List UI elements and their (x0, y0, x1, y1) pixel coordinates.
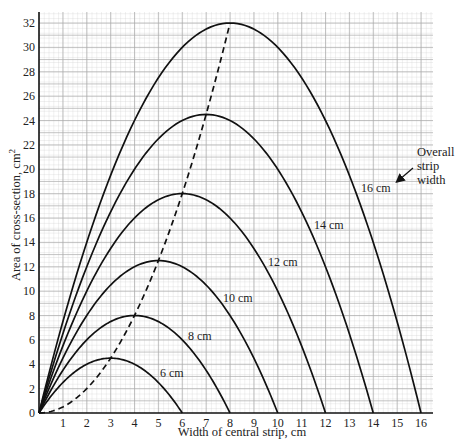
svg-text:24: 24 (23, 114, 35, 128)
svg-text:Area of cross-section, cm2: Area of cross-section, cm2 (7, 149, 23, 281)
svg-text:12: 12 (320, 416, 332, 430)
svg-text:32: 32 (23, 16, 35, 30)
chart: 12345678910111213141516 0246810121416182… (0, 0, 463, 446)
svg-text:14: 14 (367, 416, 379, 430)
svg-text:13: 13 (343, 416, 355, 430)
svg-text:0: 0 (29, 406, 35, 420)
annotation-line-2: strip (417, 159, 439, 173)
y-axis-label: Area of cross-section, cm2 (7, 149, 23, 281)
x-axis-label: Width of central strip, cm (178, 425, 307, 439)
svg-text:3: 3 (108, 416, 114, 430)
svg-text:5: 5 (155, 416, 161, 430)
svg-text:2: 2 (29, 382, 35, 396)
svg-text:4: 4 (132, 416, 138, 430)
curve-label-6cm: 6 cm (160, 366, 184, 380)
svg-text:6: 6 (29, 333, 35, 347)
svg-text:10: 10 (23, 284, 35, 298)
svg-text:16: 16 (415, 416, 427, 430)
y-tick-labels: 02468101214161820222426283032 (23, 16, 35, 420)
curve-label-16cm: 16 cm (361, 181, 391, 195)
annotation-line-1: Overall (417, 145, 455, 159)
svg-text:18: 18 (23, 187, 35, 201)
svg-text:2: 2 (84, 416, 90, 430)
svg-text:26: 26 (23, 89, 35, 103)
svg-text:14: 14 (23, 235, 35, 249)
curve-label-14cm: 14 cm (314, 218, 344, 232)
annotation-line-3: width (417, 173, 446, 187)
svg-text:15: 15 (391, 416, 403, 430)
svg-text:28: 28 (23, 65, 35, 79)
svg-text:30: 30 (23, 40, 35, 54)
svg-text:8: 8 (29, 309, 35, 323)
svg-text:4: 4 (29, 357, 35, 371)
svg-text:22: 22 (23, 138, 35, 152)
curve-label-12cm: 12 cm (268, 255, 298, 269)
svg-text:16: 16 (23, 211, 35, 225)
svg-text:20: 20 (23, 162, 35, 176)
svg-text:12: 12 (23, 260, 35, 274)
grid (39, 12, 433, 413)
curve-label-8cm: 8 cm (188, 329, 212, 343)
curve-label-10cm: 10 cm (223, 291, 253, 305)
svg-text:1: 1 (60, 416, 66, 430)
